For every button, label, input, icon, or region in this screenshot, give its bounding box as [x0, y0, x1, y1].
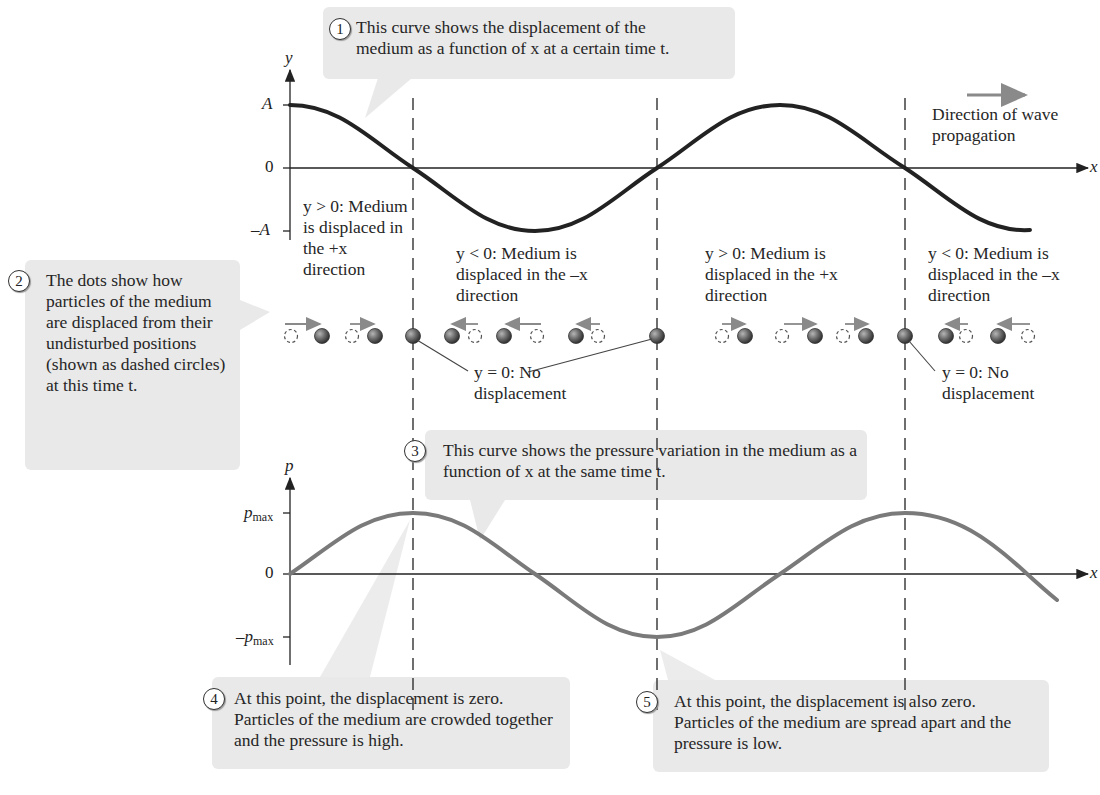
- callout-5-number: 5: [636, 691, 658, 713]
- tick-A: A: [262, 94, 272, 114]
- callout-1-number: 1: [329, 18, 351, 40]
- callout-1-text: This curve shows the displacement of the…: [356, 17, 686, 59]
- tick-minus-A: –A: [251, 220, 270, 240]
- dashed-guides: [413, 98, 905, 710]
- x-axis-label: x: [1090, 157, 1098, 177]
- callout-3-text: This curve shows the pressure variation …: [443, 440, 863, 482]
- tick-zero-pressure: 0: [265, 563, 274, 583]
- region-label-2: y < 0: Medium is displaced in the –x dir…: [456, 243, 606, 306]
- callout-4-text: At this point, the displacement is zero.…: [234, 688, 564, 751]
- tick-zero: 0: [265, 157, 274, 177]
- y-axis-label: y: [285, 48, 293, 68]
- tick-minus-pmax: –pmax: [236, 627, 274, 647]
- callout-3-number: 3: [404, 440, 426, 462]
- callout-2-text: The dots show how particles of the mediu…: [46, 270, 231, 396]
- callout-2-pointer: [240, 300, 270, 330]
- region-label-3: y > 0: Medium is displaced in the +x dir…: [705, 243, 875, 306]
- zero-displacement-label-1: y = 0: No displacement: [474, 362, 624, 404]
- callout-4-number: 4: [203, 688, 225, 710]
- region-label-4: y < 0: Medium is displaced in the –x dir…: [928, 243, 1078, 306]
- callout-5-text: At this point, the displacement is also …: [674, 691, 1024, 754]
- zero-displacement-label-2: y = 0: No displacement: [942, 362, 1092, 404]
- propagation-label: Direction of wave propagation: [932, 104, 1082, 146]
- callout-5-pointer: [660, 650, 715, 680]
- callout-1-pointer: [365, 78, 412, 118]
- tick-pmax: pmax: [244, 503, 273, 523]
- particle-row: [285, 324, 1035, 372]
- p-axis-label: p: [285, 456, 294, 476]
- region-label-1: y > 0: Medium is displaced in the +x dir…: [303, 196, 408, 280]
- pressure-graph: [283, 478, 1088, 665]
- callout-2-number: 2: [8, 270, 30, 292]
- x-axis-label-pressure: x: [1090, 563, 1098, 583]
